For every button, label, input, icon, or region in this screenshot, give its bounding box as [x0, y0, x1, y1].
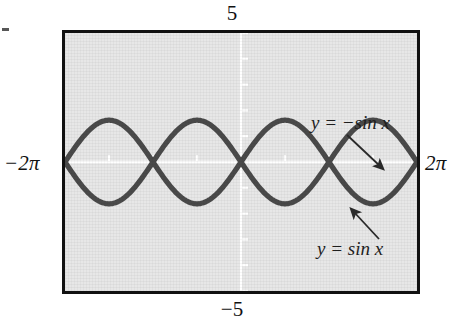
- part-label-mark: [2, 28, 9, 31]
- annotation-neg-sin-arrow: [345, 133, 395, 175]
- y-max-label: 5: [0, 1, 464, 26]
- y-min-label: −5: [0, 297, 464, 322]
- annotation-neg-sin-text: y = −sin x: [311, 112, 390, 133]
- x-max-label: 2π: [425, 151, 446, 176]
- annotation-pos-sin-arrow: [351, 209, 401, 251]
- annotation-neg-sin: y = −sin x: [311, 112, 390, 134]
- graph-figure: 5 −5 −2π 2π y = −sin x: [0, 0, 464, 322]
- plot-area: y = −sin x y = sin x: [62, 30, 420, 294]
- x-min-label: −2π: [4, 151, 40, 176]
